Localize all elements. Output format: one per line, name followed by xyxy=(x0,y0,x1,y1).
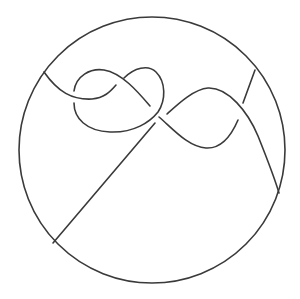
strand-left-loop-lower xyxy=(74,68,164,132)
strand-left-entry xyxy=(44,72,116,99)
strand-right-upper xyxy=(243,70,255,103)
boundary-circle xyxy=(19,17,285,283)
strand-center-right-lower xyxy=(159,117,238,148)
strand-right-lobe-top xyxy=(167,88,279,193)
strand-long-diagonal xyxy=(53,123,155,243)
strand-left-loop-upper xyxy=(74,70,150,106)
knot-diagram xyxy=(0,0,300,299)
knot-figure xyxy=(0,0,300,299)
